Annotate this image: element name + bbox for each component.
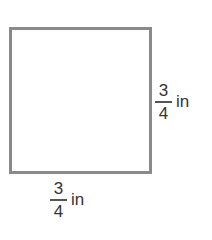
right-side-fraction: 3 4 xyxy=(155,82,172,122)
unit-label: in xyxy=(71,191,84,208)
fraction-bar xyxy=(155,101,172,103)
bottom-side-fraction: 3 4 xyxy=(50,180,67,220)
fraction-numerator: 3 xyxy=(54,180,63,197)
unit-label: in xyxy=(176,93,189,110)
bottom-side-label: 3 4 in xyxy=(50,180,84,220)
square-shape xyxy=(9,27,152,174)
fraction-bar xyxy=(50,199,67,201)
right-side-label: 3 4 in xyxy=(155,82,189,122)
fraction-denominator: 4 xyxy=(54,203,63,220)
fraction-numerator: 3 xyxy=(159,82,168,99)
fraction-denominator: 4 xyxy=(159,105,168,122)
